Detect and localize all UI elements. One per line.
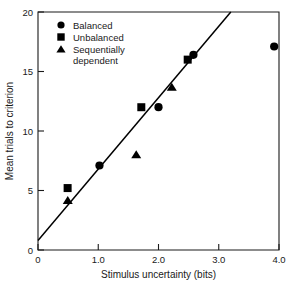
legend-item-unbalanced: Unbalanced	[57, 32, 123, 43]
data-point-circle	[270, 42, 278, 50]
legend-item-sequentially-dependent: Sequentially dependent	[56, 44, 125, 67]
legend-label-sequentially: Sequentially	[73, 44, 125, 55]
legend-circle-icon	[57, 21, 64, 28]
y-tick-label-5: 5	[28, 185, 33, 196]
data-point-triangle	[131, 150, 141, 158]
legend-label-dependent: dependent	[73, 55, 118, 66]
data-point-square	[184, 56, 192, 64]
plot-canvas: 0 5 10 15 20 0 1.0 2.0 3.0 4.0 Stimulus …	[0, 0, 295, 288]
y-axis-title: Mean trials to criterion	[4, 82, 15, 180]
x-tick-label-4: 4.0	[272, 254, 285, 265]
y-tick-label-20: 20	[22, 7, 33, 18]
series-unbalanced-markers	[64, 56, 192, 192]
legend-square-icon	[57, 33, 64, 40]
legend-triangle-icon	[56, 45, 65, 52]
x-tick-label-3: 3.0	[212, 254, 225, 265]
y-tick-label-0: 0	[28, 245, 33, 256]
y-axis-tick-labels: 0 5 10 15 20	[22, 7, 33, 256]
regression-line	[38, 12, 231, 240]
x-tick-label-1: 1.0	[92, 254, 105, 265]
scatter-plot-figure: 0 5 10 15 20 0 1.0 2.0 3.0 4.0 Stimulus …	[0, 0, 295, 288]
x-axis-ticks	[38, 244, 279, 250]
legend-label-unbalanced: Unbalanced	[73, 32, 124, 43]
legend: Balanced Unbalanced Sequentially depende…	[56, 20, 125, 67]
x-axis-tick-labels: 0 1.0 2.0 3.0 4.0	[35, 254, 285, 265]
data-point-square	[64, 184, 72, 192]
x-tick-label-0: 0	[35, 254, 40, 265]
data-point-circle	[154, 103, 162, 111]
y-tick-label-15: 15	[22, 66, 33, 77]
y-axis-ticks	[38, 12, 44, 250]
legend-item-balanced: Balanced	[57, 20, 112, 31]
x-axis-title: Stimulus uncertainty (bits)	[101, 269, 216, 280]
legend-label-balanced: Balanced	[73, 20, 113, 31]
data-point-square	[137, 103, 145, 111]
y-tick-label-10: 10	[22, 126, 33, 137]
data-point-circle	[95, 161, 103, 169]
x-tick-label-2: 2.0	[152, 254, 165, 265]
